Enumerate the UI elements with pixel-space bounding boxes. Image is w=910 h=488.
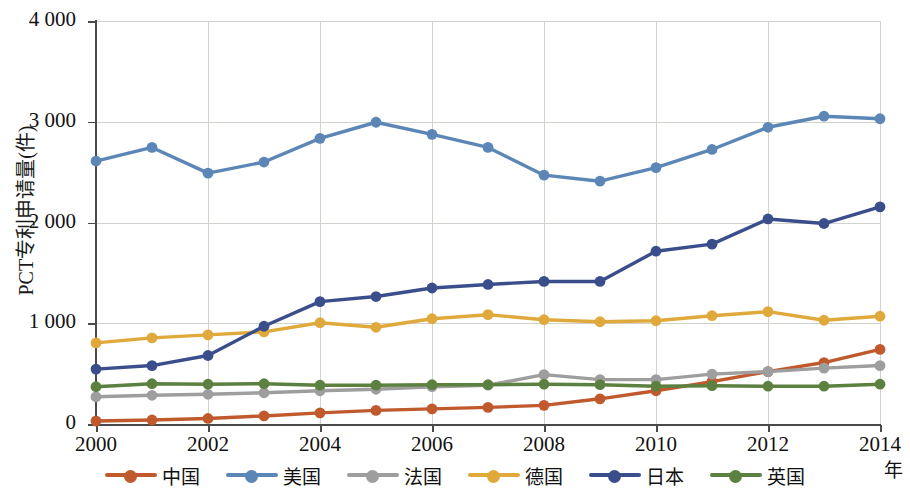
data-point (427, 403, 438, 414)
data-point (203, 350, 214, 361)
legend-label: 中国 (162, 462, 200, 488)
legend-dot (487, 470, 500, 483)
x-axis-tick-label: 2000 (75, 432, 117, 457)
data-point (707, 239, 718, 250)
data-point (651, 246, 662, 257)
data-point (259, 321, 270, 332)
data-point (819, 381, 830, 392)
data-point (595, 393, 606, 404)
y-axis-tick-label-wrap: 3 000 (0, 108, 84, 133)
y-axis-tick-label: 0 (66, 410, 85, 434)
data-point (595, 379, 606, 390)
data-point (427, 379, 438, 390)
data-point (539, 369, 550, 380)
data-point (539, 170, 550, 181)
data-point (147, 360, 158, 371)
legend-label: 英国 (767, 462, 805, 488)
data-point (875, 360, 886, 371)
legend-swatch-icon (226, 468, 278, 482)
y-axis-tick-label-wrap: 2 000 (0, 209, 84, 234)
data-point (819, 111, 830, 122)
y-axis-tick (88, 323, 95, 325)
x-axis-tick-label: 2002 (187, 432, 229, 457)
series-日本 (91, 201, 886, 374)
legend-swatch-icon (105, 468, 157, 482)
data-point (371, 322, 382, 333)
data-point (875, 311, 886, 322)
data-point (875, 379, 886, 390)
legend-dot (124, 470, 137, 483)
data-point (875, 201, 886, 212)
legend-label: 法国 (404, 462, 442, 488)
chart-legend: 中国美国法国德国日本英国 (0, 462, 910, 488)
series-layer (96, 21, 880, 424)
y-axis-tick-label-wrap: 4 000 (0, 7, 84, 32)
series-美国 (91, 111, 886, 187)
data-point (91, 391, 102, 402)
data-point (707, 310, 718, 321)
data-point (427, 313, 438, 324)
legend-label: 德国 (525, 462, 563, 488)
data-point (371, 380, 382, 391)
data-point (875, 113, 886, 124)
data-point (707, 380, 718, 391)
x-axis-tick-label: 2014 (859, 432, 901, 457)
data-point (483, 309, 494, 320)
data-point (595, 316, 606, 327)
data-point (91, 381, 102, 392)
x-axis-tick (880, 425, 882, 432)
legend-dot (729, 470, 742, 483)
legend-dot (608, 470, 621, 483)
legend-item-中国[interactable]: 中国 (105, 462, 200, 488)
data-point (203, 413, 214, 424)
data-point (203, 329, 214, 340)
legend-swatch-icon (468, 468, 520, 482)
data-point (707, 369, 718, 380)
data-point (315, 296, 326, 307)
legend-item-日本[interactable]: 日本 (589, 462, 684, 488)
data-point (259, 157, 270, 168)
legend-item-英国[interactable]: 英国 (710, 462, 805, 488)
legend-swatch-icon (589, 468, 641, 482)
x-axis-tick (544, 425, 546, 432)
data-point (315, 317, 326, 328)
data-point (483, 142, 494, 153)
x-axis-tick-label: 2006 (411, 432, 453, 457)
legend-item-美国[interactable]: 美国 (226, 462, 321, 488)
legend-swatch-icon (710, 468, 762, 482)
data-point (147, 142, 158, 153)
data-point (315, 380, 326, 391)
data-point (595, 276, 606, 287)
y-axis-tick-label-wrap: 0 (0, 410, 84, 435)
legend-swatch-icon (347, 468, 399, 482)
data-point (763, 381, 774, 392)
y-axis-tick-label: 1 000 (29, 309, 84, 333)
series-德国 (91, 306, 886, 348)
line-chart: PCT专利申请量(件) 01 0002 0003 0004 000 200020… (0, 0, 910, 488)
y-axis-tick-label: 3 000 (29, 108, 84, 132)
x-axis-tick-label: 2012 (747, 432, 789, 457)
data-point (483, 379, 494, 390)
data-point (763, 214, 774, 225)
data-point (371, 291, 382, 302)
data-point (147, 332, 158, 343)
y-axis-tick-label: 4 000 (29, 7, 84, 31)
data-point (91, 338, 102, 349)
data-point (427, 283, 438, 294)
data-point (147, 378, 158, 389)
data-point (651, 162, 662, 173)
y-axis-tick (88, 122, 95, 124)
data-point (315, 133, 326, 144)
data-point (539, 314, 550, 325)
x-axis-tick (320, 425, 322, 432)
data-point (819, 363, 830, 374)
data-point (427, 129, 438, 140)
data-point (203, 389, 214, 400)
y-axis-tick (88, 223, 95, 225)
data-point (819, 218, 830, 229)
data-point (707, 144, 718, 155)
legend-item-法国[interactable]: 法国 (347, 462, 442, 488)
data-point (539, 276, 550, 287)
x-axis-tick (768, 425, 770, 432)
legend-item-德国[interactable]: 德国 (468, 462, 563, 488)
